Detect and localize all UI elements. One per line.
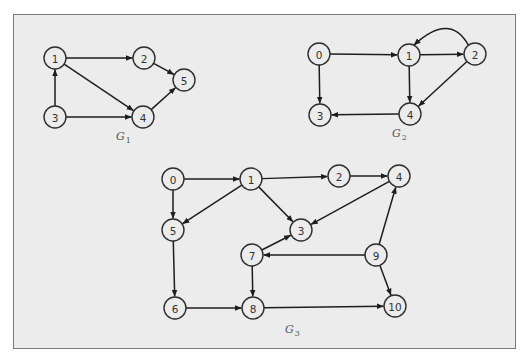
edge-g2-2-to-1 <box>414 29 468 46</box>
node-g3-2: 2 <box>328 165 350 187</box>
edge-g3-7-to-8 <box>252 266 253 297</box>
node-label: 10 <box>388 301 401 313</box>
edge-g3-9-to-4 <box>379 187 396 244</box>
node-label: 0 <box>316 49 323 61</box>
node-label: 2 <box>141 53 148 65</box>
node-label: 8 <box>250 303 257 315</box>
node-g1-2: 2 <box>133 47 155 69</box>
edge-g2-1-to-2 <box>420 54 464 55</box>
node-g2-3: 3 <box>309 104 331 126</box>
edge-g3-4-to-3 <box>311 181 389 224</box>
edge-g3-7-to-3 <box>262 235 291 250</box>
node-label: 7 <box>249 250 256 262</box>
node-g3-0: 0 <box>162 168 184 190</box>
node-g3-1: 1 <box>240 168 262 190</box>
edge-g3-8-to-10 <box>264 306 384 308</box>
graph-canvas: 1253401234012453796810 G1G2G3 <box>0 0 532 361</box>
node-label: 9 <box>373 250 380 262</box>
node-g2-2: 2 <box>464 43 486 65</box>
nodes-layer: 1253401234012453796810 <box>44 43 486 319</box>
edge-g3-1-to-2 <box>262 176 328 178</box>
edge-g2-1-to-4 <box>409 66 410 103</box>
node-label: 5 <box>181 75 188 87</box>
node-label: 4 <box>407 109 414 121</box>
node-label: 4 <box>140 112 147 124</box>
edge-g2-0-to-3 <box>319 65 320 104</box>
graph-label-g3: G3 <box>285 323 300 338</box>
node-g3-7: 7 <box>241 244 263 266</box>
node-label: 4 <box>396 171 403 183</box>
edge-g2-2-to-4 <box>418 61 466 106</box>
edge-g2-4-to-3 <box>331 114 399 115</box>
node-g3-8: 8 <box>242 297 264 319</box>
node-g3-6: 6 <box>164 297 186 319</box>
graph-label-g2: G2 <box>392 127 407 142</box>
node-g2-4: 4 <box>399 103 421 125</box>
node-label: 5 <box>170 225 177 237</box>
edge-g1-4-to-5 <box>151 88 175 110</box>
edge-g1-2-to-5 <box>154 63 174 74</box>
node-label: 6 <box>172 303 179 315</box>
edge-g1-1-to-4 <box>64 64 133 110</box>
node-g3-5: 5 <box>162 219 184 241</box>
edge-g3-5-to-6 <box>173 241 174 297</box>
node-label: 2 <box>472 49 479 61</box>
node-label: 2 <box>336 171 343 183</box>
graph-label-g1: G1 <box>116 130 131 145</box>
node-g3-4: 4 <box>388 165 410 187</box>
node-g1-1: 1 <box>44 47 66 69</box>
node-label: 1 <box>248 174 255 186</box>
node-g1-4: 4 <box>132 106 154 128</box>
node-g3-3: 3 <box>290 219 312 241</box>
edge-g3-1-to-5 <box>183 185 242 224</box>
node-label: 3 <box>52 112 59 124</box>
node-g3-9: 9 <box>365 244 387 266</box>
node-g3-10: 10 <box>384 295 406 317</box>
node-g1-5: 5 <box>173 69 195 91</box>
edge-g2-0-to-1 <box>330 54 398 55</box>
node-label: 3 <box>317 110 324 122</box>
node-g1-3: 3 <box>44 106 66 128</box>
node-g2-1: 1 <box>398 44 420 66</box>
node-label: 1 <box>406 50 413 62</box>
node-g2-0: 0 <box>308 43 330 65</box>
edge-g3-1-to-3 <box>259 187 293 222</box>
node-label: 1 <box>52 53 59 65</box>
node-label: 3 <box>298 225 305 237</box>
edge-g3-9-to-10 <box>380 265 391 295</box>
node-label: 0 <box>170 174 177 186</box>
